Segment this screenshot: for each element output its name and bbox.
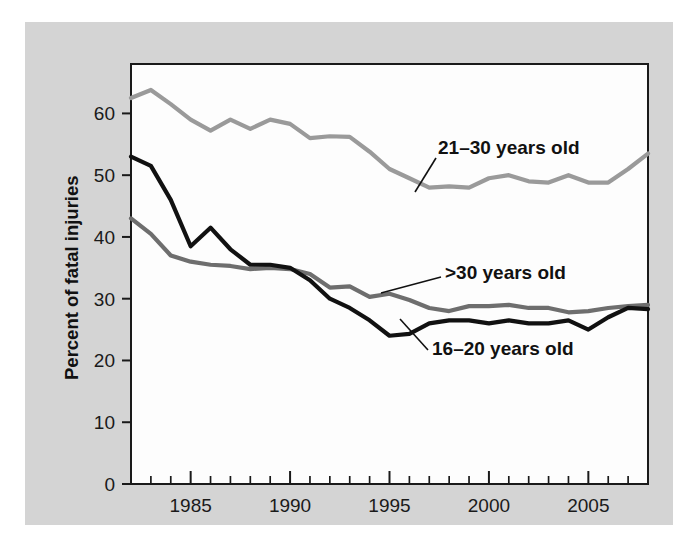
y-tick-label-20: 20 <box>94 350 115 371</box>
x-tick-label-1985: 1985 <box>170 495 212 516</box>
y-axis-label: Percent of fatal injuries <box>61 175 82 380</box>
plot-area-background <box>131 64 648 484</box>
line-chart: 0102030405060 19851990199520002005 21–30… <box>0 0 697 551</box>
y-tick-label-10: 10 <box>94 412 115 433</box>
y-tick-label-30: 30 <box>94 289 115 310</box>
label-over-30: >30 years old <box>445 262 566 283</box>
y-tick-label-50: 50 <box>94 165 115 186</box>
x-tick-label-2000: 2000 <box>468 495 510 516</box>
figure-container: 0102030405060 19851990199520002005 21–30… <box>0 0 697 551</box>
label-16-20: 16–20 years old <box>432 338 574 359</box>
chart-plot-wrapper: 0102030405060 19851990199520002005 21–30… <box>0 0 697 551</box>
label-21-30: 21–30 years old <box>438 137 580 158</box>
x-tick-label-1990: 1990 <box>269 495 311 516</box>
y-tick-label-40: 40 <box>94 227 115 248</box>
x-tick-label-1995: 1995 <box>368 495 410 516</box>
x-tick-label-2005: 2005 <box>567 495 609 516</box>
y-axis-ticks: 0102030405060 <box>94 103 131 495</box>
y-tick-label-60: 60 <box>94 103 115 124</box>
y-tick-label-0: 0 <box>104 474 115 495</box>
